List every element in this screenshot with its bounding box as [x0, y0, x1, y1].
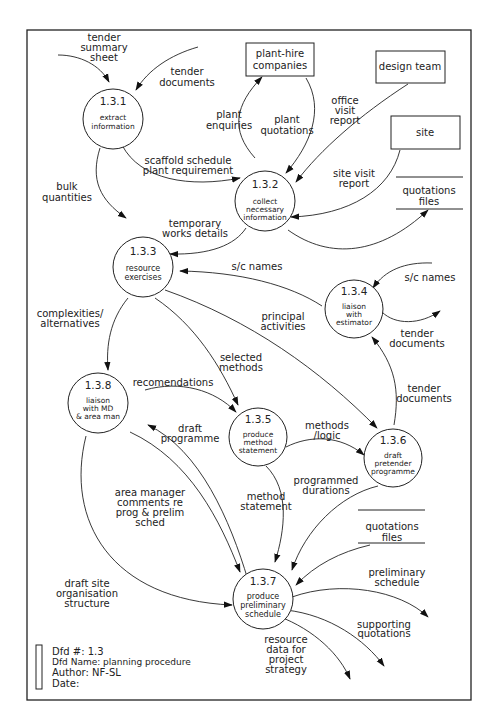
store-label: quotations: [365, 521, 418, 532]
flow-label: plant: [274, 114, 300, 125]
process-id: 1.3.7: [250, 575, 277, 587]
flow-label: enquiries: [206, 120, 252, 131]
flow-complexities: [108, 298, 128, 370]
flow-label: documents: [389, 338, 445, 349]
flow-label: statement: [240, 501, 292, 512]
flow-label: recomendations: [133, 377, 214, 388]
flow-label: quantities: [42, 192, 92, 203]
external-plant-hire: plant-hire companies: [246, 43, 314, 76]
process-id: 1.3.5: [245, 413, 272, 425]
process-name: produce: [247, 592, 280, 601]
process-name: & area man: [76, 412, 120, 421]
process-1-3-5: 1.3.5 produce method statement: [229, 408, 287, 466]
process-name: estimator: [336, 318, 373, 327]
legend-author: Author: NF-SL: [52, 667, 121, 678]
flow-label: programme: [161, 433, 220, 444]
flow-recomendations: [145, 386, 236, 412]
flow-preliminary-schedule: [292, 589, 428, 617]
external-label: plant-hire: [256, 48, 304, 59]
store-quotations-files-2: quotations files: [358, 510, 425, 543]
process-id: 1.3.2: [252, 178, 279, 190]
flow-plant-enquiries: [239, 77, 262, 158]
store-quotations-files-1: quotations files: [396, 177, 463, 209]
flow-label: tender: [170, 66, 204, 77]
flow-label: structure: [64, 598, 109, 609]
flow-tender-documents-134: [372, 337, 396, 425]
process-name: information: [91, 122, 135, 131]
legend-dfd-name: Dfd Name: planning procedure: [52, 657, 191, 667]
flow-label: activities: [260, 321, 305, 332]
store-label: files: [382, 532, 402, 543]
flow-label: quotations: [260, 125, 313, 136]
legend-dfd-number: Dfd #: 1.3: [52, 646, 104, 657]
flow-label: report: [330, 115, 361, 126]
flow-label: quotations: [357, 628, 410, 639]
flow-label: schedule: [375, 577, 420, 588]
flow-label: bulk: [56, 181, 77, 192]
legend-date: Date:: [52, 678, 79, 689]
process-name: schedule: [245, 610, 281, 619]
external-label: site: [416, 127, 434, 138]
process-name: extract: [100, 113, 127, 122]
process-name: resource: [126, 264, 161, 273]
external-design-team: design team: [376, 51, 445, 83]
process-id: 1.3.8: [85, 379, 112, 391]
flow-label: sched: [135, 517, 165, 528]
process-name: information: [243, 213, 287, 222]
process-1-3-3: 1.3.3 resource exercises: [113, 237, 173, 297]
flow-label: plant: [216, 109, 242, 120]
flow-label: documents: [159, 77, 215, 88]
flow-bulk-quantities: [96, 148, 126, 218]
flow-label: strategy: [265, 664, 307, 675]
process-name: programme: [371, 467, 415, 476]
flow-label: works details: [162, 228, 228, 239]
external-label: companies: [253, 60, 307, 71]
flow-label: s/c names: [232, 261, 283, 272]
process-id: 1.3.4: [341, 285, 368, 297]
store-label: quotations: [402, 185, 455, 196]
process-name: statement: [239, 446, 278, 455]
process-id: 1.3.1: [100, 95, 127, 107]
process-1-3-7: 1.3.7 produce preliminary schedule: [233, 569, 293, 629]
process-1-3-2: 1.3.2 collect necessary information: [235, 171, 295, 231]
flow-sc-names-1: [180, 271, 322, 306]
external-site: site: [391, 116, 460, 149]
flow-label: documents: [396, 393, 452, 404]
store-label: files: [419, 196, 439, 207]
flow-tender-documents-out: [382, 311, 440, 322]
flow-label: sheet: [90, 52, 118, 63]
legend-marker: [36, 645, 42, 689]
flow-methods-logic: [286, 439, 364, 455]
flow-label: /logic: [314, 430, 341, 441]
process-name: preliminary: [240, 601, 286, 610]
process-id: 1.3.3: [130, 245, 157, 257]
process-id: 1.3.6: [380, 434, 407, 446]
flow-label: s/c names: [405, 272, 456, 283]
flow-label: report: [339, 178, 370, 189]
process-1-3-8: 1.3.8 liaison with MD & area man: [68, 373, 128, 433]
legend-block: Dfd #: 1.3 Dfd Name: planning procedure …: [36, 645, 191, 689]
flow-label: methods: [219, 362, 263, 373]
process-name: exercises: [124, 273, 161, 282]
data-flow-diagram: plant-hire companies design team site qu…: [0, 0, 489, 727]
external-label: design team: [379, 61, 441, 72]
process-1-3-1: 1.3.1 extract information: [83, 89, 143, 149]
flow-from-quotations-files: [296, 545, 370, 585]
flow-label: plant requirement: [143, 165, 233, 176]
process-1-3-6: 1.3.6 draft pretender programme: [364, 429, 422, 487]
flow-method-statement: [266, 466, 283, 562]
process-1-3-4: 1.3.4 liaison with estimator: [325, 280, 383, 338]
flow-label: durations: [302, 485, 349, 496]
flow-label: alternatives: [40, 318, 99, 329]
